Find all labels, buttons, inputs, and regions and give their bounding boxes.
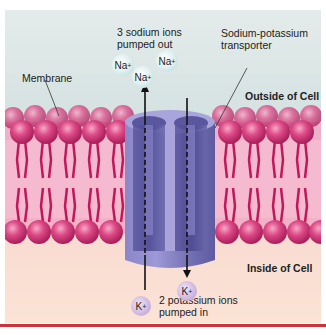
potassium-ion: K+: [177, 281, 197, 301]
ion-charge: +: [127, 62, 131, 69]
potassium-in-label: 2 potassium ions pumped in: [159, 294, 238, 318]
ion-charge: +: [142, 303, 146, 310]
outside-of-cell-label: Outside of Cell: [245, 90, 319, 102]
ion-charge: +: [171, 58, 175, 65]
transporter-label: Sodium-potassium transporter: [221, 27, 308, 51]
sodium-ion: Na+: [132, 66, 154, 88]
membrane-label: Membrane: [22, 72, 72, 84]
potassium-ion: K+: [131, 296, 151, 316]
sodium-ion: Na+: [112, 54, 134, 76]
potassium-in-line1: 2 potassium ions: [159, 294, 238, 306]
sodium-out-line1: 3 sodium ions: [117, 26, 182, 38]
ion-charge: +: [147, 74, 151, 81]
inside-of-cell-label: Inside of Cell: [247, 262, 312, 274]
bottom-divider: [0, 324, 326, 327]
transporter-line2: transporter: [221, 39, 308, 51]
diagram-panel: 3 sodium ions pumped out Sodium-potassiu…: [5, 10, 321, 323]
ion-symbol: Na: [135, 72, 148, 83]
transporter-protein: [125, 110, 215, 268]
ion-charge: +: [188, 288, 192, 295]
ion-symbol: Na: [159, 56, 172, 67]
ion-symbol: K: [136, 301, 143, 312]
potassium-in-line2: pumped in: [159, 306, 238, 318]
ion-symbol: Na: [115, 60, 128, 71]
sodium-out-label: 3 sodium ions pumped out: [117, 26, 182, 50]
ion-symbol: K: [182, 286, 189, 297]
sodium-ion: Na+: [156, 50, 178, 72]
transporter-line1: Sodium-potassium: [221, 27, 308, 39]
sodium-out-line2: pumped out: [117, 38, 182, 50]
